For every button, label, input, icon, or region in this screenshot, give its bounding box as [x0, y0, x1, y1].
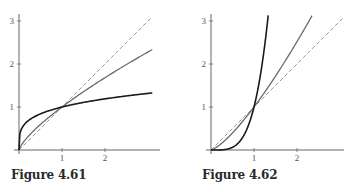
curve-y-x-3-4 [19, 50, 152, 150]
curve-y-x [19, 17, 152, 150]
x-tick-label: 1 [60, 153, 65, 163]
y-tick-label: 3 [10, 16, 15, 26]
x-tick-label: 2 [295, 153, 300, 163]
figure-4-61-plot: 12123 [10, 14, 161, 163]
x-tick-label: 2 [103, 153, 108, 163]
y-tick-label: 2 [202, 59, 207, 69]
y-tick-label: 1 [202, 102, 207, 112]
y-tick-label: 1 [10, 102, 15, 112]
curve-y-x [211, 17, 344, 150]
figures-canvas: 12123 12123 [0, 0, 344, 192]
curve-y-x-4-3 [211, 16, 312, 150]
curve-y-x-1-4 [19, 93, 152, 150]
x-tick-label: 1 [252, 153, 257, 163]
figure-4-62-plot: 12123 [202, 14, 344, 163]
y-tick-label: 2 [10, 59, 15, 69]
y-tick-label: 3 [202, 16, 207, 26]
figure-4-62-caption: Figure 4.62 [202, 168, 277, 182]
curve-y-x-4 [211, 15, 268, 150]
figure-4-61-caption: Figure 4.61 [11, 168, 86, 182]
